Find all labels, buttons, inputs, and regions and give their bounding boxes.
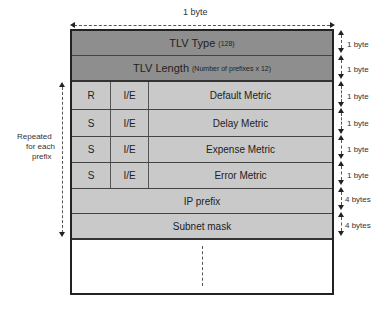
arrow-down-icon — [338, 180, 344, 185]
size-error-metric: 1 byte — [347, 171, 369, 180]
ie-bit: I/E — [111, 110, 149, 136]
arrow-up-icon — [338, 55, 344, 60]
tlv-type-note: (128) — [218, 40, 234, 47]
arrow-down-icon — [59, 232, 65, 237]
arrow-down-icon — [338, 48, 344, 53]
arrow-up-icon — [338, 108, 344, 113]
size-subnet-mask: 4 bytes — [345, 221, 371, 230]
size-tlv-type: 1 byte — [347, 40, 369, 49]
arrow-down-icon — [338, 74, 344, 79]
arrow-up-icon — [338, 187, 344, 192]
delay-metric-label: Delay Metric — [149, 110, 332, 136]
expense-metric-label: Expense Metric — [149, 137, 332, 162]
row-subnet-mask: Subnet mask — [72, 214, 332, 240]
row-tlv-type: TLV Type (128) — [72, 31, 332, 56]
repeat-label-line1: Repeated — [17, 132, 52, 141]
size-line-default — [341, 86, 342, 102]
arrow-up-icon — [338, 135, 344, 140]
size-line-tlv-length — [341, 60, 342, 74]
size-expense-metric: 1 byte — [347, 145, 369, 154]
repeat-dimension-line — [62, 87, 63, 233]
tlv-length-label: TLV Length — [133, 62, 189, 74]
ie-bit: I/E — [111, 163, 149, 188]
size-line-ip-prefix — [341, 192, 342, 205]
width-dimension-line — [74, 25, 330, 26]
arrow-up-icon — [338, 212, 344, 217]
tlv-type-label: TLV Type — [169, 37, 215, 49]
arrow-down-icon — [338, 102, 344, 107]
size-line-subnet — [341, 217, 342, 231]
arrow-down-icon — [338, 129, 344, 134]
arrow-up-icon — [338, 30, 344, 35]
size-default-metric: 1 byte — [347, 92, 369, 101]
arrow-left-icon — [70, 22, 75, 28]
size-tlv-length: 1 byte — [347, 65, 369, 74]
s-bit: S — [72, 163, 111, 188]
row-expense-metric: S I/E Expense Metric — [72, 137, 332, 163]
r-bit: R — [72, 82, 111, 109]
error-metric-label: Error Metric — [149, 163, 332, 188]
arrow-down-icon — [338, 154, 344, 159]
arrow-right-icon — [330, 22, 335, 28]
size-delay-metric: 1 byte — [347, 119, 369, 128]
arrow-up-icon — [338, 81, 344, 86]
subnet-mask-label: Subnet mask — [72, 214, 332, 238]
arrow-up-icon — [338, 161, 344, 166]
size-line-delay — [341, 113, 342, 129]
arrow-down-icon — [338, 231, 344, 236]
s-bit: S — [72, 110, 111, 136]
tlv-packet-diagram: TLV Type (128) TLV Length (Number of pre… — [70, 29, 334, 295]
row-delay-metric: S I/E Delay Metric — [72, 110, 332, 137]
row-tlv-length: TLV Length (Number of prefixes x 12) — [72, 56, 332, 82]
size-line-expense — [341, 140, 342, 154]
default-metric-label: Default Metric — [149, 82, 332, 109]
width-label: 1 byte — [183, 7, 208, 17]
ie-bit: I/E — [111, 82, 149, 109]
row-ip-prefix: IP prefix — [72, 189, 332, 214]
row-default-metric: R I/E Default Metric — [72, 82, 332, 110]
size-ip-prefix: 4 bytes — [345, 195, 371, 204]
size-line-tlv-type — [341, 35, 342, 48]
repeat-label-line2: for each — [26, 142, 55, 151]
size-line-error — [341, 166, 342, 180]
ie-bit: I/E — [111, 137, 149, 162]
row-error-metric: S I/E Error Metric — [72, 163, 332, 189]
tlv-length-note: (Number of prefixes x 12) — [192, 65, 271, 72]
repeat-label-line3: prefix — [32, 152, 52, 161]
s-bit: S — [72, 137, 111, 162]
arrow-down-icon — [338, 205, 344, 210]
continuation-line — [202, 246, 203, 286]
ip-prefix-label: IP prefix — [72, 189, 332, 213]
